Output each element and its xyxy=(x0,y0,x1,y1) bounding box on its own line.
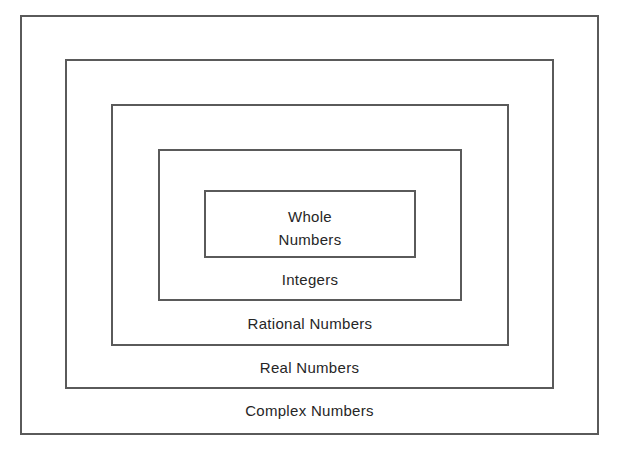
label-whole-line2: Numbers xyxy=(206,229,414,251)
label-integers: Integers xyxy=(160,271,460,289)
label-complex-numbers: Complex Numbers xyxy=(22,402,597,420)
label-real-numbers: Real Numbers xyxy=(67,359,552,377)
set-whole-numbers: Whole Numbers xyxy=(204,190,416,258)
label-whole-line1: Whole xyxy=(206,206,414,228)
label-rational-numbers: Rational Numbers xyxy=(113,315,507,333)
